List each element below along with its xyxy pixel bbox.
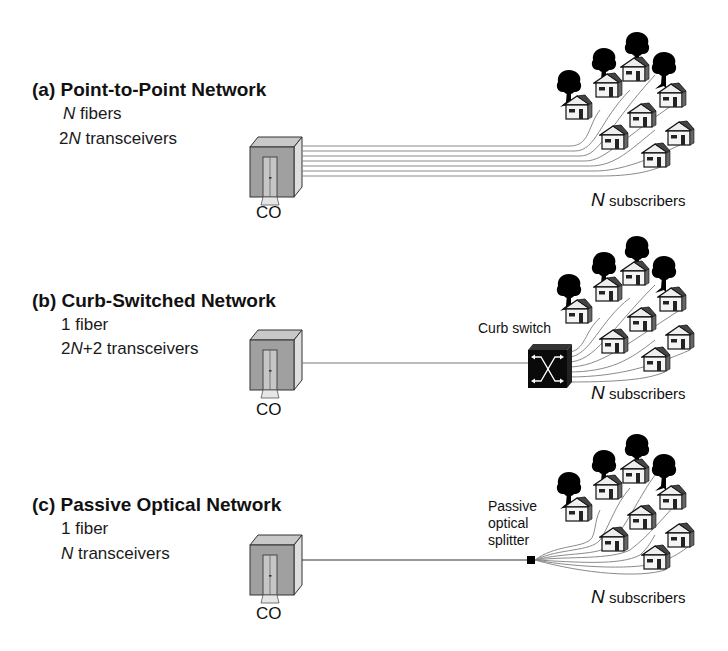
splitter-icon xyxy=(527,556,535,564)
panel-c-subscribers-label: N subscribers xyxy=(591,586,686,608)
panel-c-subscriber-cluster xyxy=(555,440,725,590)
splitter-label-line-3: splitter xyxy=(488,532,537,549)
splitter-label: Passive optical splitter xyxy=(488,498,537,549)
house-icon xyxy=(593,474,623,500)
panel-c-subscribers-text: subscribers xyxy=(605,589,686,606)
splitter-label-line-2: optical xyxy=(488,515,537,532)
house-icon xyxy=(563,496,593,522)
house-icon xyxy=(627,504,657,530)
panel-c-subscribers-var: N xyxy=(591,586,605,607)
splitter-label-line-1: Passive xyxy=(488,498,537,515)
house-icon xyxy=(641,544,671,570)
house-icon xyxy=(657,484,687,510)
house-icon xyxy=(620,458,650,484)
house-icon xyxy=(599,526,629,552)
